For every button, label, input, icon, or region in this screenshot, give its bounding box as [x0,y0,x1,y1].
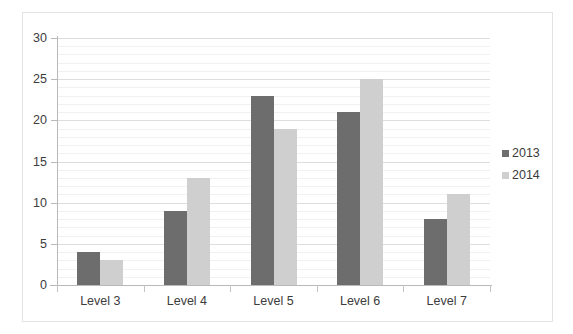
legend-label: 2013 [512,147,540,160]
y-axis-tick-label: 25 [21,73,47,86]
y-axis-tick [51,38,58,39]
legend-label: 2014 [512,169,540,182]
legend-item-2014[interactable]: 2014 [502,164,550,186]
bar-2014-level-4[interactable] [187,178,210,285]
x-axis-tick [57,285,58,292]
x-axis-line [50,285,492,286]
bar-2013-level-6[interactable] [337,112,360,285]
legend-item-2013[interactable]: 2013 [502,142,550,164]
bar-2013-level-3[interactable] [77,252,100,285]
y-axis-tick [51,244,58,245]
y-axis-tick-label: 0 [21,279,47,292]
gridline-major [57,120,490,121]
y-axis-tick [51,203,58,204]
y-axis-tick-label: 30 [21,32,47,45]
gridline-minor [57,46,490,47]
x-axis-tick [490,285,491,292]
x-axis-category-label: Level 5 [230,293,317,309]
gridline-minor [57,71,490,72]
gridline-minor [57,112,490,113]
x-axis-category-label: Level 4 [144,293,231,309]
x-axis-category-label: Level 7 [403,293,490,309]
chart-screenshot: 051015202530 Level 3Level 4Level 5Level … [0,0,573,334]
y-axis-tick-label: 15 [21,155,47,168]
gridline-major [57,38,490,39]
gridline-minor [57,87,490,88]
y-axis-tick-label: 10 [21,196,47,209]
y-axis-tick-labels: 051015202530 [20,0,47,334]
x-axis-category-label: Level 6 [317,293,404,309]
x-axis-tick [230,285,231,292]
y-axis-tick-label: 5 [21,238,47,251]
y-axis-tick-label: 20 [21,114,47,127]
gridline-minor [57,54,490,55]
bar-2014-level-6[interactable] [360,79,383,285]
x-axis-tick [144,285,145,292]
bar-2014-level-3[interactable] [100,260,123,285]
gridline-minor [57,63,490,64]
x-axis-category-label: Level 3 [57,293,144,309]
bar-2013-level-4[interactable] [164,211,187,285]
gridline-minor [57,104,490,105]
plot-area [57,38,490,285]
bar-2013-level-7[interactable] [424,219,447,285]
bar-2013-level-5[interactable] [251,96,274,285]
y-axis-tick [51,120,58,121]
x-axis-tick [317,285,318,292]
x-axis-tick [403,285,404,292]
y-axis-tick [51,79,58,80]
y-axis-tick [51,162,58,163]
legend-swatch-icon [502,172,509,179]
legend-swatch-icon [502,150,509,157]
gridline-major [57,79,490,80]
x-axis-category-labels: Level 3Level 4Level 5Level 6Level 7 [57,293,490,313]
bar-2014-level-7[interactable] [447,194,470,285]
bar-2014-level-5[interactable] [274,129,297,285]
gridline-minor [57,96,490,97]
chart-legend: 20132014 [502,142,550,186]
